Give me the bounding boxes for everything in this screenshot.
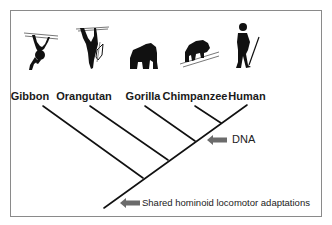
taxon-label-chimpanzee: Chimpanzee bbox=[163, 90, 228, 102]
human-silhouette-icon bbox=[236, 23, 259, 68]
trunk-line bbox=[104, 105, 247, 208]
branch-chimpanzee bbox=[195, 106, 221, 123]
cladogram-svg bbox=[0, 0, 332, 225]
left-arrow-icon bbox=[120, 198, 140, 208]
gorilla-silhouette-icon bbox=[130, 43, 158, 69]
chimpanzee-silhouette-icon bbox=[180, 40, 219, 67]
branch-gibbon bbox=[43, 106, 143, 178]
branch-gorilla bbox=[145, 106, 195, 141]
taxon-label-gorilla: Gorilla bbox=[126, 90, 161, 102]
orangutan-silhouette-icon bbox=[76, 27, 109, 69]
gibbon-silhouette-icon bbox=[24, 33, 58, 70]
taxon-label-gibbon: Gibbon bbox=[11, 90, 50, 102]
taxon-label-orangutan: Orangutan bbox=[56, 90, 112, 102]
taxon-label-human: Human bbox=[228, 90, 265, 102]
annotation-dna: DNA bbox=[232, 133, 255, 145]
left-arrow-icon bbox=[207, 135, 227, 145]
annotation-shared-locomotor: Shared hominoid locomotor adaptations bbox=[142, 197, 310, 208]
